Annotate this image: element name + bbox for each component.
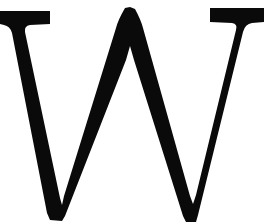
letter-w-outline: [0, 7, 264, 222]
glyph-canvas: W: [0, 0, 264, 223]
letter-w-glyph: W: [0, 0, 264, 223]
